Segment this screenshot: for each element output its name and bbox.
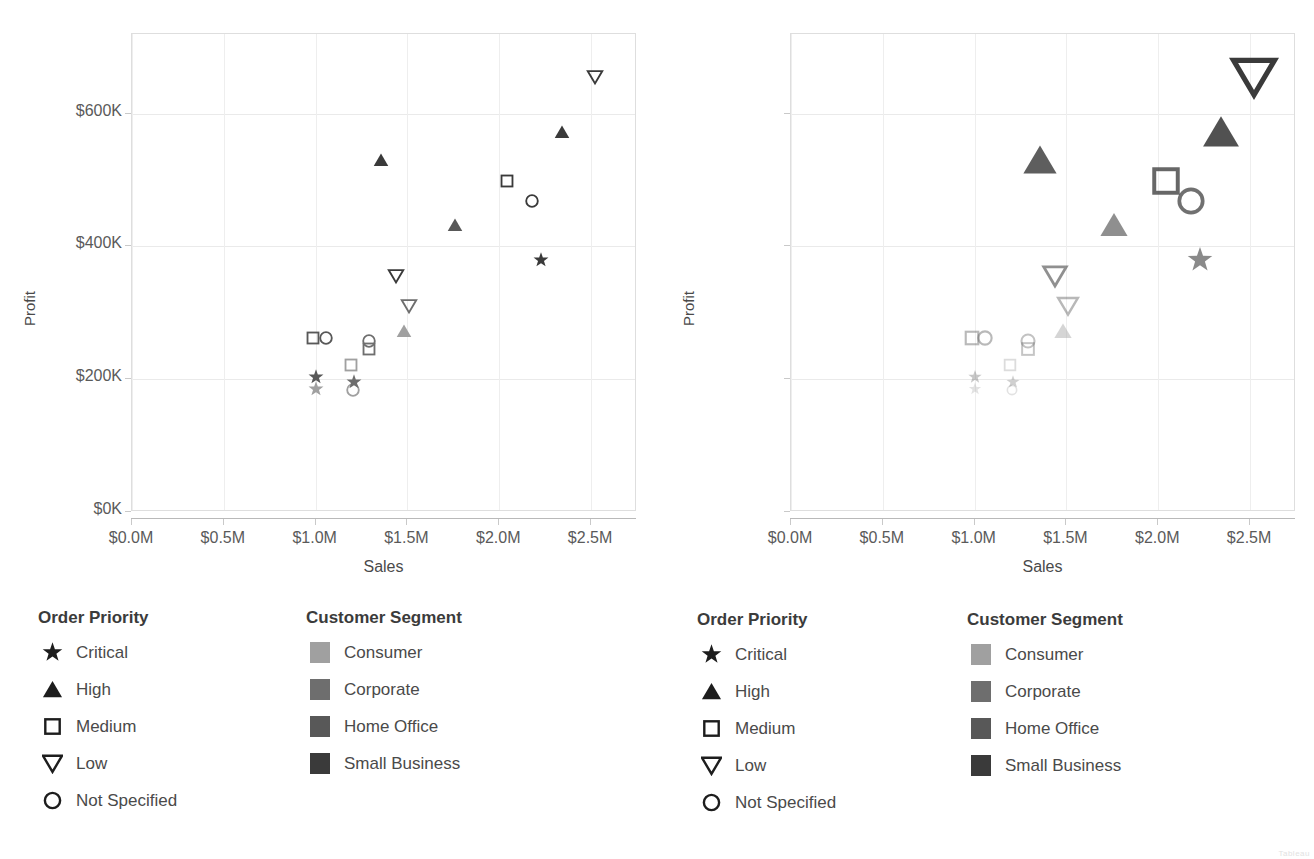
data-point-marker [1043, 263, 1068, 288]
y-axis-tick-label: $600K [76, 102, 122, 120]
legend-item-label: Home Office [344, 717, 438, 737]
y-axis-tick-mark [784, 245, 790, 246]
x-axis-title: Sales [131, 558, 636, 576]
gridline-vertical [499, 34, 500, 510]
y-axis-tick-mark [125, 245, 131, 246]
legend-item-critical[interactable]: Critical [697, 636, 836, 673]
swatch [971, 681, 991, 702]
data-point-marker [1186, 247, 1212, 273]
data-point-marker [967, 370, 981, 384]
legend-item-home-office[interactable]: Home Office [306, 708, 462, 745]
legend-item-label: Low [76, 754, 107, 774]
swatch [310, 716, 330, 737]
x-axis-tick-label: $0.0M [740, 529, 840, 547]
legend-item-consumer[interactable]: Consumer [967, 636, 1123, 673]
x-axis-tick-mark [498, 519, 499, 525]
legend-title-customer-segment: Customer Segment [967, 610, 1123, 630]
data-point-marker [1053, 322, 1072, 341]
data-point-marker [447, 217, 463, 233]
triangle-up-icon [38, 677, 66, 703]
swatch [971, 755, 991, 776]
legend-item-label: High [735, 682, 770, 702]
data-point-marker [308, 369, 324, 385]
chart-panel-left: $0K$200K$400K$600K$0.0M$0.5M$1.0M$1.5M$2… [0, 0, 657, 859]
legend-items-order-priority: CriticalHighMediumLowNot Specified [38, 634, 177, 819]
legend-item-corporate[interactable]: Corporate [967, 673, 1123, 710]
legend-item-medium[interactable]: Medium [697, 710, 836, 747]
data-point-marker [361, 333, 377, 349]
legend-order-priority-left: Order Priority CriticalHighMediumLowNot … [38, 608, 177, 819]
legend-item-not-specified[interactable]: Not Specified [697, 784, 836, 821]
gridline-horizontal [791, 379, 1294, 380]
legend-item-label: High [76, 680, 111, 700]
swatch [310, 753, 330, 774]
y-axis-title: Profit [21, 291, 38, 326]
data-point-marker [499, 173, 515, 189]
legend-item-small-business[interactable]: Small Business [306, 745, 462, 782]
legend-item-label: Critical [76, 643, 128, 663]
data-point-marker [373, 152, 389, 168]
color-swatch-icon [967, 679, 995, 705]
data-point-marker [1058, 295, 1080, 317]
x-axis-tick-label: $2.0M [448, 529, 548, 547]
legend-item-not-specified[interactable]: Not Specified [38, 782, 177, 819]
legend-order-priority-right: Order Priority CriticalHighMediumLowNot … [697, 610, 836, 821]
color-swatch-icon [967, 642, 995, 668]
x-axis-tick-label: $1.0M [924, 529, 1024, 547]
legend-item-medium[interactable]: Medium [38, 708, 177, 745]
legend-item-high[interactable]: High [38, 671, 177, 708]
data-point-marker [401, 298, 417, 314]
legend-item-home-office[interactable]: Home Office [967, 710, 1123, 747]
gridline-vertical [316, 34, 317, 510]
color-swatch-icon [306, 751, 334, 777]
chart-panel-right: $0K$200K$400K$600K$0.0M$0.5M$1.0M$1.5M$2… [657, 0, 1314, 859]
x-axis-tick-mark [1157, 519, 1158, 525]
legend-item-critical[interactable]: Critical [38, 634, 177, 671]
triangle-up-icon [697, 679, 725, 705]
x-axis-tick-label: $1.0M [265, 529, 365, 547]
data-point-marker [533, 252, 549, 268]
gridline-vertical [1158, 34, 1159, 510]
color-swatch-icon [306, 677, 334, 703]
gridline-vertical [591, 34, 592, 510]
x-axis-tick-label: $2.0M [1107, 529, 1207, 547]
data-point-marker [1022, 142, 1059, 179]
square-outline-icon [697, 716, 725, 742]
y-axis-tick-label: $0K [94, 500, 122, 518]
gridline-vertical [1250, 34, 1251, 510]
plot-area [131, 33, 636, 511]
gridline-vertical [224, 34, 225, 510]
legend-item-label: Medium [76, 717, 136, 737]
y-axis-tick-mark [784, 511, 790, 512]
legend-item-low[interactable]: Low [38, 745, 177, 782]
legend-item-consumer[interactable]: Consumer [306, 634, 462, 671]
swatch [310, 642, 330, 663]
corner-watermark: Tableau [1278, 849, 1310, 858]
legend-item-label: Consumer [1005, 645, 1083, 665]
swatch [971, 718, 991, 739]
x-axis-tick-label: $1.5M [356, 529, 456, 547]
legend-item-low[interactable]: Low [697, 747, 836, 784]
data-point-marker [346, 374, 362, 390]
gridline-horizontal [132, 114, 635, 115]
legend-item-label: Corporate [1005, 682, 1081, 702]
legend-item-corporate[interactable]: Corporate [306, 671, 462, 708]
triangle-down-icon [38, 751, 66, 777]
data-point-marker [1003, 357, 1019, 373]
data-point-marker [396, 323, 412, 339]
legend-item-label: Small Business [1005, 756, 1121, 776]
data-point-marker [1148, 164, 1182, 198]
gridline-horizontal [132, 246, 635, 247]
x-axis-tick-mark [131, 519, 132, 525]
x-axis-tick-mark [315, 519, 316, 525]
legend-item-high[interactable]: High [697, 673, 836, 710]
x-axis-title: Sales [790, 558, 1295, 576]
legend-title-order-priority: Order Priority [38, 608, 177, 628]
gridline-horizontal [132, 379, 635, 380]
x-axis-line [790, 518, 1295, 519]
x-axis-tick-label: $1.5M [1015, 529, 1115, 547]
triangle-down-icon [697, 753, 725, 779]
x-axis-tick-label: $0.5M [173, 529, 273, 547]
data-point-marker [1019, 332, 1037, 350]
legend-item-small-business[interactable]: Small Business [967, 747, 1123, 784]
